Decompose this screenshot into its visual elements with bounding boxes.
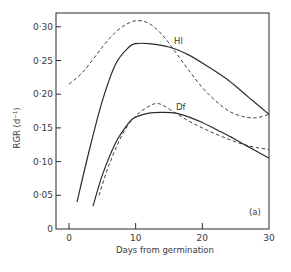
x-tick-label: 30	[263, 233, 275, 243]
series-line-hl-dashed	[69, 21, 269, 118]
y-tick-label: 0·30	[33, 22, 53, 32]
y-tick-label: 0·05	[33, 190, 53, 200]
series-line-df-dashed	[99, 104, 269, 196]
x-tick-label: 10	[130, 233, 142, 243]
rgr-chart: 00·050·100·150·200·250·30 0102030 Hl Df …	[0, 0, 291, 272]
x-axis-label: Days from germination	[116, 245, 214, 255]
series-label-hl: Hl	[174, 36, 183, 46]
y-tick-label: 0	[47, 224, 53, 234]
x-tick-label: 20	[197, 233, 209, 243]
series-line-hl-solid	[77, 43, 269, 202]
x-axis-ticks: 0102030	[66, 223, 275, 243]
y-tick-label: 0·10	[33, 157, 53, 167]
y-tick-label: 0·15	[33, 123, 53, 133]
x-tick-label: 0	[66, 233, 72, 243]
series-label-df: Df	[176, 102, 187, 112]
y-tick-label: 0·20	[33, 89, 53, 99]
series-line-df-solid	[93, 112, 269, 206]
y-tick-label: 0·25	[33, 56, 53, 66]
series-lines	[69, 21, 269, 207]
panel-label: (a)	[249, 207, 261, 217]
y-axis-label: RGR (d⁻¹)	[12, 107, 22, 148]
y-axis-ticks: 00·050·100·150·200·250·30	[33, 22, 61, 234]
